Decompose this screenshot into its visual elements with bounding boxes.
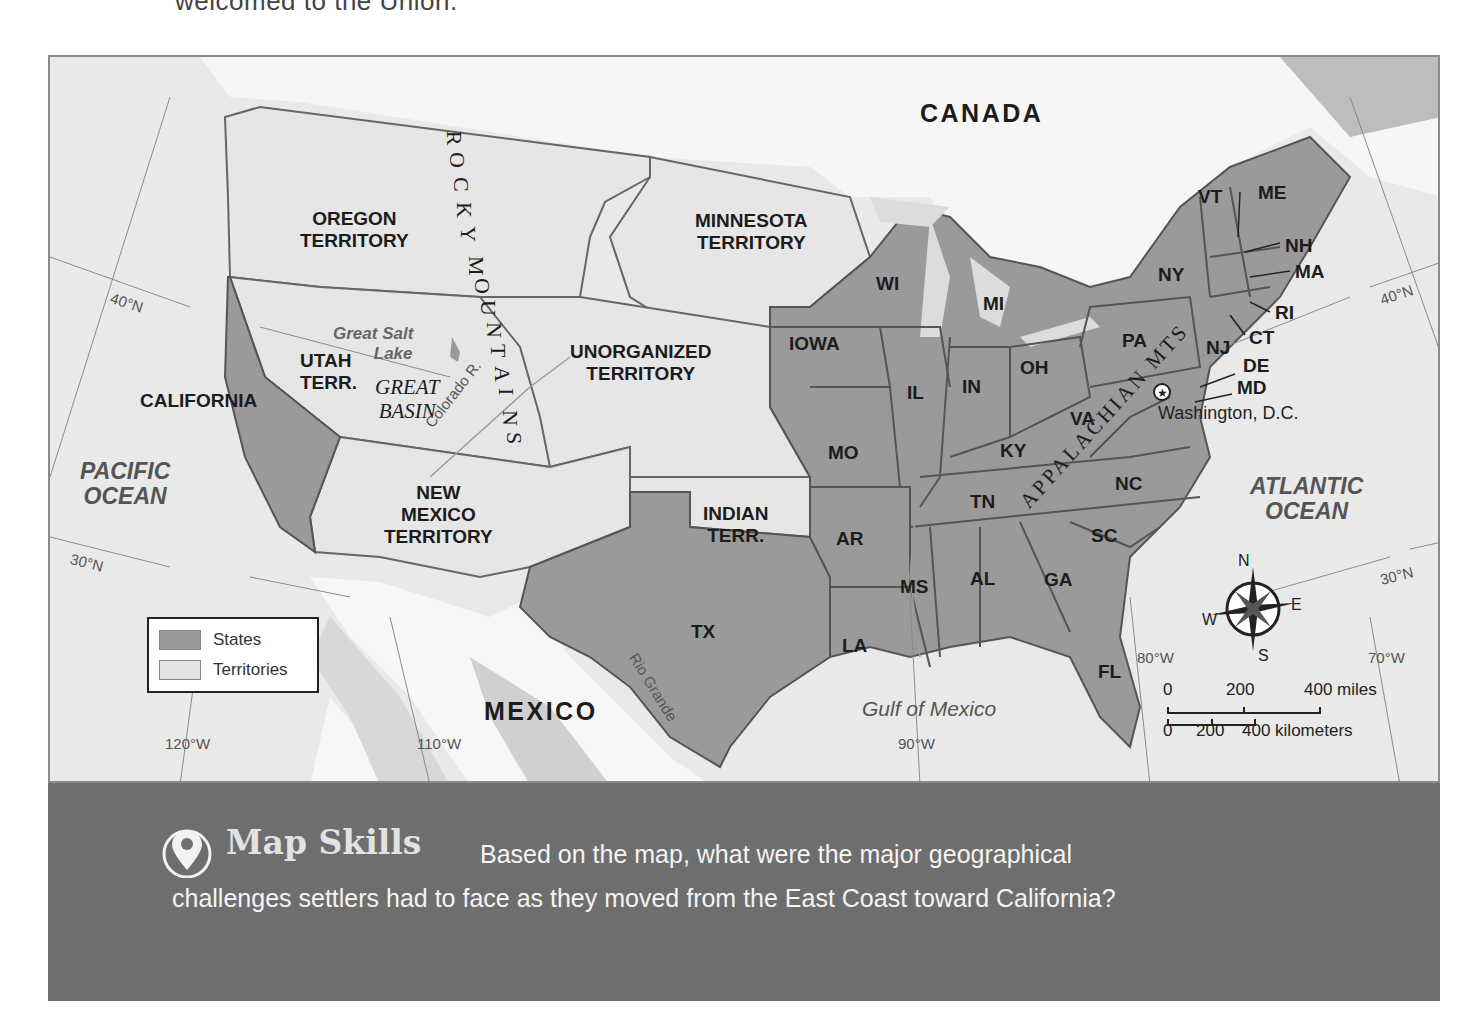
- label-great-salt-lake: Great Salt Lake: [333, 324, 413, 364]
- label-connecticut: CT: [1249, 327, 1274, 349]
- grid-label-90w: 90°W: [898, 733, 935, 755]
- compass-west: W: [1202, 609, 1217, 631]
- label-massachusetts: MA: [1295, 261, 1325, 283]
- compass-south: S: [1258, 645, 1269, 667]
- label-wisconsin: WI: [876, 273, 899, 295]
- scale-km-200: 200: [1196, 720, 1224, 742]
- label-unorganized-territory: UNORGANIZED TERRITORY: [570, 341, 711, 385]
- label-florida: FL: [1098, 661, 1121, 683]
- legend-label-states: States: [213, 630, 261, 650]
- label-delaware: DE: [1243, 355, 1269, 377]
- grid-label-70w: 70°W: [1368, 647, 1405, 669]
- label-missouri: MO: [828, 442, 859, 464]
- label-new-hampshire: NH: [1285, 235, 1312, 257]
- label-indian-territory: INDIAN TERR.: [703, 503, 768, 547]
- label-new-jersey: NJ: [1206, 337, 1230, 359]
- label-minnesota-territory: MINNESOTA TERRITORY: [695, 210, 808, 254]
- label-iowa: IOWA: [789, 333, 840, 355]
- label-arkansas: AR: [836, 528, 863, 550]
- scale-km-0: 0: [1163, 720, 1172, 742]
- label-indiana: IN: [962, 376, 981, 398]
- label-ohio: OH: [1020, 357, 1049, 379]
- label-oregon-territory: OREGON TERRITORY: [300, 208, 409, 252]
- legend-label-territories: Territories: [213, 660, 288, 680]
- label-canada: CANADA: [920, 102, 1043, 124]
- scale-miles-200: 200: [1226, 679, 1254, 701]
- legend-item-states: States: [159, 629, 261, 651]
- label-washington-dc: Washington, D.C.: [1158, 402, 1298, 424]
- label-michigan: MI: [983, 293, 1004, 315]
- compass-north: N: [1238, 550, 1250, 572]
- label-rocky-mountains: R O C K Y M O U N T A I N S: [442, 127, 466, 443]
- map-skills-panel: Map Skills Based on the map, what were t…: [48, 783, 1440, 1001]
- label-tennessee: TN: [970, 491, 995, 513]
- label-atlantic-ocean: ATLANTIC OCEAN: [1250, 474, 1363, 524]
- legend-item-territories: Territories: [159, 659, 288, 681]
- label-maryland: MD: [1237, 377, 1267, 399]
- label-louisiana: LA: [842, 635, 867, 657]
- legend-swatch-territories: [159, 660, 201, 680]
- label-rhode-island: RI: [1275, 302, 1294, 324]
- scale-miles-400: 400 miles: [1304, 679, 1377, 701]
- map-skills-question: Based on the map, what were the major ge…: [172, 832, 1132, 920]
- label-texas: TX: [691, 621, 715, 643]
- washington-dc-marker: ★: [1154, 384, 1170, 400]
- label-california: CALIFORNIA: [140, 390, 257, 412]
- grid-label-120w: 120°W: [165, 733, 210, 755]
- legend-swatch-states: [159, 630, 201, 650]
- label-south-carolina: SC: [1091, 525, 1117, 547]
- scale-miles-0: 0: [1163, 679, 1172, 701]
- compass-east: E: [1291, 594, 1302, 616]
- label-gulf-of-mexico: Gulf of Mexico: [862, 698, 996, 720]
- map-legend: States Territories: [147, 617, 319, 693]
- svg-text:★: ★: [1157, 386, 1168, 400]
- label-mexico: MEXICO: [484, 700, 598, 722]
- label-new-york: NY: [1158, 264, 1184, 286]
- label-kentucky: KY: [1000, 440, 1026, 462]
- grid-label-110w: 110°W: [417, 733, 461, 755]
- label-vermont: VT: [1198, 186, 1222, 208]
- grid-label-80w: 80°W: [1137, 647, 1174, 669]
- label-alabama: AL: [970, 568, 995, 590]
- label-illinois: IL: [907, 382, 924, 404]
- label-georgia: GA: [1044, 569, 1073, 591]
- scale-km-400: 400 kilometers: [1242, 720, 1353, 742]
- label-pennsylvania: PA: [1122, 330, 1147, 352]
- page-top-text: welcomed to the Union.: [175, 0, 458, 17]
- label-maine: ME: [1258, 182, 1287, 204]
- label-pacific-ocean: PACIFIC OCEAN: [80, 459, 170, 509]
- label-new-mexico-territory: NEW MEXICO TERRITORY: [384, 482, 493, 548]
- label-mississippi: MS: [900, 576, 929, 598]
- label-north-carolina: NC: [1115, 473, 1142, 495]
- us-territorial-map: ★ CANADA MEXICO PACIFIC OCEAN ATLANTIC O…: [48, 55, 1440, 783]
